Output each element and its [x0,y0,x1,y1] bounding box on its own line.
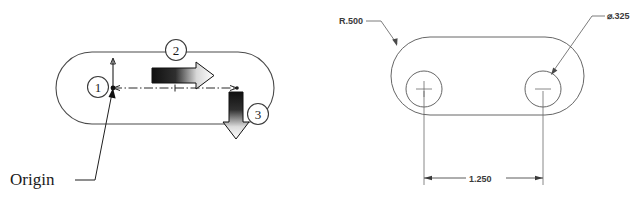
left-callout-view: 1 2 3 Origin [10,40,274,190]
dim-arrowhead-right [535,176,543,180]
dimension-hole-spacing: 1.250 [424,174,543,184]
centerline-right-point [235,86,239,90]
callout-2: 2 [166,40,187,61]
origin-leader [75,88,116,180]
dimension-hole-spacing-label: 1.250 [469,174,492,184]
diameter-leader-arrowhead [551,68,557,75]
callout-1: 1 [88,77,109,98]
horizontal-gradient-arrow [152,62,214,89]
callout-2-label: 2 [173,43,180,58]
dimension-hole-diameter-label: ⌀.325 [607,11,630,21]
right-dimensioned-view: 1.250 R.500 ⌀.325 [339,11,630,185]
origin-leader-line [75,88,113,180]
callout-3: 3 [248,104,269,125]
callout-1-label: 1 [95,80,102,95]
vertical-gradient-arrow [223,92,249,139]
dimension-corner-radius: R.500 [339,16,398,46]
technical-drawing-figure: 1 2 3 Origin [0,0,638,199]
dim-arrowhead-left [424,176,432,180]
dimension-corner-radius-label: R.500 [339,16,363,26]
drawing-canvas: 1 2 3 Origin [0,0,638,199]
radius-leader-arrowhead [392,38,397,46]
radius-leader-line [366,21,397,44]
callout-3-label: 3 [255,107,262,122]
diameter-leader-line [552,16,605,73]
origin-label: Origin [10,170,55,189]
dimension-hole-diameter: ⌀.325 [551,11,630,75]
